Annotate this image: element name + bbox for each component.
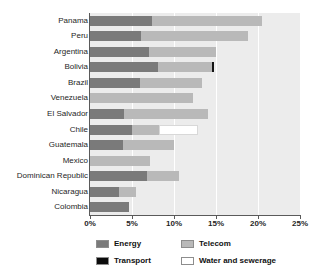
bar-row bbox=[90, 156, 300, 166]
y-axis-category-label: Argentina bbox=[0, 47, 88, 57]
bar-row bbox=[90, 16, 300, 26]
water-swatch-icon bbox=[181, 257, 194, 265]
legend-label-energy: Energy bbox=[114, 239, 141, 248]
bar-segment-telecom bbox=[158, 62, 212, 72]
x-axis-tick-label: 15% bbox=[208, 219, 224, 229]
y-axis-category-label: Venezuela bbox=[0, 93, 88, 103]
x-axis-tick-label: 10% bbox=[166, 219, 182, 229]
bar-segment-telecom bbox=[90, 156, 150, 166]
bar-segment-telecom bbox=[140, 78, 201, 88]
gridline bbox=[300, 13, 301, 215]
legend-label-transport: Transport bbox=[114, 256, 151, 265]
stacked-bar-chart: PanamaPeruArgentinaBoliviaBrazilVenezuel… bbox=[0, 0, 310, 276]
bar-row bbox=[90, 202, 300, 212]
x-axis-line bbox=[89, 215, 301, 216]
bar-row bbox=[90, 62, 300, 72]
bar-segment-energy bbox=[90, 109, 124, 119]
bar-segment-energy bbox=[90, 187, 119, 197]
y-axis-category-label: Bolivia bbox=[0, 62, 88, 72]
telecom-swatch-icon bbox=[181, 240, 194, 248]
legend-label-water: Water and sewerage bbox=[199, 256, 276, 265]
y-axis-category-label: Nicaragua bbox=[0, 187, 88, 197]
y-axis-line bbox=[89, 13, 90, 215]
bar-row bbox=[90, 47, 300, 57]
bar-row bbox=[90, 171, 300, 181]
y-axis-category-label: Guatemala bbox=[0, 140, 88, 150]
bar-row bbox=[90, 31, 300, 41]
y-axis-category-label: Colombia bbox=[0, 202, 88, 212]
x-axis-labels: 0%5%10%15%20%25% bbox=[0, 219, 310, 231]
bar-row bbox=[90, 93, 300, 103]
legend-item-energy[interactable]: Energy bbox=[96, 238, 141, 249]
bar-segment-telecom bbox=[132, 125, 159, 135]
bar-segment-telecom bbox=[123, 140, 174, 150]
bar-segment-energy bbox=[90, 78, 140, 88]
bar-row bbox=[90, 78, 300, 88]
bar-row bbox=[90, 125, 300, 135]
transport-swatch-icon bbox=[96, 257, 109, 265]
bar-segment-energy bbox=[90, 31, 141, 41]
legend-item-water[interactable]: Water and sewerage bbox=[181, 255, 276, 266]
bar-segment-transport bbox=[212, 62, 215, 72]
legend-label-telecom: Telecom bbox=[199, 239, 231, 248]
bar-segment-energy bbox=[90, 62, 158, 72]
x-axis-tick-label: 25% bbox=[292, 219, 308, 229]
legend-item-telecom[interactable]: Telecom bbox=[181, 238, 231, 249]
bar-segment-energy bbox=[90, 125, 132, 135]
y-axis-labels: PanamaPeruArgentinaBoliviaBrazilVenezuel… bbox=[0, 13, 88, 215]
bar-segment-energy bbox=[90, 171, 147, 181]
plot-area bbox=[90, 13, 300, 215]
energy-swatch-icon bbox=[96, 240, 109, 248]
bar-segment-energy bbox=[90, 47, 149, 57]
legend-item-transport[interactable]: Transport bbox=[96, 255, 151, 266]
bar-segment-energy bbox=[90, 202, 129, 212]
y-axis-category-label: Brazil bbox=[0, 78, 88, 88]
y-axis-category-label: Peru bbox=[0, 31, 88, 41]
y-axis-category-label: Mexico bbox=[0, 156, 88, 166]
bar-segment-telecom bbox=[124, 109, 208, 119]
bar-segment-telecom bbox=[152, 16, 262, 26]
bar-segment-telecom bbox=[149, 47, 216, 57]
x-axis-tick-label: 20% bbox=[250, 219, 266, 229]
bar-segment-telecom bbox=[90, 93, 193, 103]
bar-row bbox=[90, 187, 300, 197]
x-axis-tick-label: 0% bbox=[84, 219, 96, 229]
bar-row bbox=[90, 109, 300, 119]
y-axis-category-label: El Salvador bbox=[0, 109, 88, 119]
bar-segment-water bbox=[159, 125, 198, 135]
bar-row bbox=[90, 140, 300, 150]
bar-segment-energy bbox=[90, 16, 152, 26]
bar-segment-telecom bbox=[141, 31, 248, 41]
bar-segment-telecom bbox=[119, 187, 137, 197]
y-axis-category-label: Chile bbox=[0, 125, 88, 135]
y-axis-category-label: Dominican Republic bbox=[0, 171, 88, 181]
bar-segment-energy bbox=[90, 140, 123, 150]
x-axis-tick-label: 5% bbox=[126, 219, 138, 229]
chart-legend: Energy Telecom Transport Water and sewer… bbox=[96, 238, 296, 270]
chart-title bbox=[60, 0, 270, 4]
bar-segment-telecom bbox=[147, 171, 179, 181]
y-axis-category-label: Panama bbox=[0, 16, 88, 26]
